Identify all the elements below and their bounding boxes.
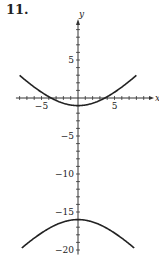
y-tick-label: 5	[68, 55, 74, 65]
hyperbola-graph: −555−5−10−15−20xy	[0, 0, 159, 264]
y-axis-label: y	[78, 9, 85, 19]
x-axis-arrow-icon	[149, 96, 154, 100]
x-tick-label: −5	[35, 101, 49, 111]
y-axis-arrow-icon	[76, 19, 80, 25]
x-tick-label: 5	[112, 101, 118, 111]
x-axis-label: x	[155, 93, 159, 103]
y-tick-label: −15	[55, 207, 74, 217]
y-tick-label: −5	[61, 131, 75, 141]
y-tick-label: −20	[55, 245, 74, 255]
y-tick-label: −10	[55, 169, 74, 179]
